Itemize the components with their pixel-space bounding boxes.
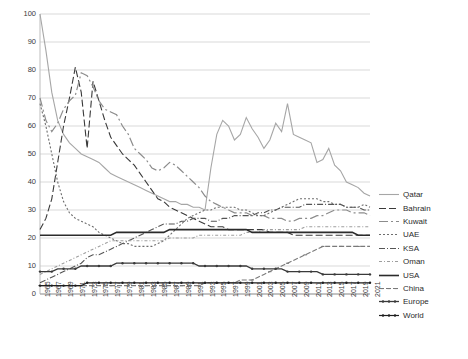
chart-legend: QatarBahrainKuwaitUAEKSAOmanUSAChinaEuro… [378,188,466,322]
x-tick-label: 2007 [291,281,298,297]
series-marker [110,282,112,284]
x-tick-label: 1981 [138,281,145,297]
x-tick-label: 1971 [79,281,86,297]
series-marker [310,282,312,284]
x-tick-label: 1995 [220,281,227,297]
x-tick-label: 1977 [114,281,121,297]
x-tick-label: 1975 [102,281,109,297]
series-marker [369,282,371,284]
legend-label: World [403,311,424,320]
series-marker [310,270,312,272]
legend-label: Oman [403,257,425,266]
x-tick-label: 1973 [91,281,98,297]
x-tick-label: 2003 [267,281,274,297]
series-marker [192,282,194,284]
x-tick-label: 2013 [326,281,333,297]
y-tick-label: 10 [8,262,36,270]
series-marker [263,268,265,270]
legend-item-kuwait[interactable]: Kuwait [378,215,466,228]
series-line-kuwait [40,73,370,221]
series-marker [86,265,88,267]
series-marker [345,273,347,275]
series-marker [333,282,335,284]
series-marker [98,282,100,284]
series-marker [74,284,76,286]
series-marker [109,285,112,286]
legend-swatch-icon [378,257,400,266]
legend-item-usa[interactable]: USA [378,268,466,281]
series-marker [263,282,265,284]
legend-item-bahrain[interactable]: Bahrain [378,201,466,214]
y-tick-label: 0 [8,290,36,298]
x-tick-label: 1989 [185,281,192,297]
series-marker [110,265,112,267]
legend-swatch-icon [378,311,400,320]
legend-item-uae[interactable]: UAE [378,228,466,241]
x-tick-label: 1967 [55,281,62,297]
y-tick-label: 20 [8,234,36,242]
series-marker [168,282,170,284]
series-marker [239,282,241,284]
series-marker [227,282,229,284]
x-tick-label: 1997 [232,281,239,297]
series-marker [39,284,41,286]
chart-container: 0102030405060708090100 19651967196919711… [0,0,468,359]
series-marker [192,262,194,264]
series-marker [333,273,335,275]
y-tick-label: 30 [8,206,36,214]
legend-item-china[interactable]: China [378,282,466,295]
chart-svg [40,14,370,294]
y-tick-label: 80 [8,66,36,74]
x-tick-label: 1985 [161,281,168,297]
series-marker [357,273,359,275]
legend-item-qatar[interactable]: Qatar [378,188,466,201]
series-marker [304,254,307,255]
series-line-usa [40,230,370,236]
series-marker [180,285,183,286]
series-marker [227,265,229,267]
legend-swatch-icon [378,204,400,213]
y-tick-label: 100 [8,10,36,18]
series-marker [345,282,347,284]
x-tick-label: 1969 [67,281,74,297]
series-marker [121,282,123,284]
series-marker [251,280,254,281]
series-marker [145,262,147,264]
series-marker [357,246,360,247]
plot-area [40,14,370,294]
y-tick-label: 70 [8,94,36,102]
series-marker [62,268,64,270]
legend-swatch-icon [378,271,400,280]
x-tick-label: 1983 [150,281,157,297]
series-marker [251,268,253,270]
x-tick-label: 1965 [44,281,51,297]
series-marker [180,262,182,264]
x-tick-label: 2017 [350,281,357,297]
legend-item-oman[interactable]: Oman [378,255,466,268]
legend-swatch-icon [378,244,400,253]
x-tick-label: 1991 [197,281,204,297]
series-marker [298,282,300,284]
legend-item-ksa[interactable]: KSA [378,242,466,255]
series-marker [39,270,41,272]
series-marker [275,268,277,270]
series-marker [157,282,159,284]
legend-item-europe[interactable]: Europe [378,295,466,308]
series-marker [51,270,53,272]
legend-label: Qatar [403,190,423,199]
legend-item-world[interactable]: World [378,309,466,322]
legend-swatch-icon [378,190,400,199]
series-marker [286,282,288,284]
series-marker [121,262,123,264]
series-marker [357,282,359,284]
x-tick-label: 1993 [209,281,216,297]
series-marker [239,265,241,267]
x-tick-label: 2015 [338,281,345,297]
legend-label: China [403,284,424,293]
series-line-qatar [40,14,370,210]
series-marker [321,246,324,247]
series-marker [180,282,182,284]
series-marker [74,268,76,270]
legend-swatch-icon [378,217,400,226]
series-marker [133,262,135,264]
